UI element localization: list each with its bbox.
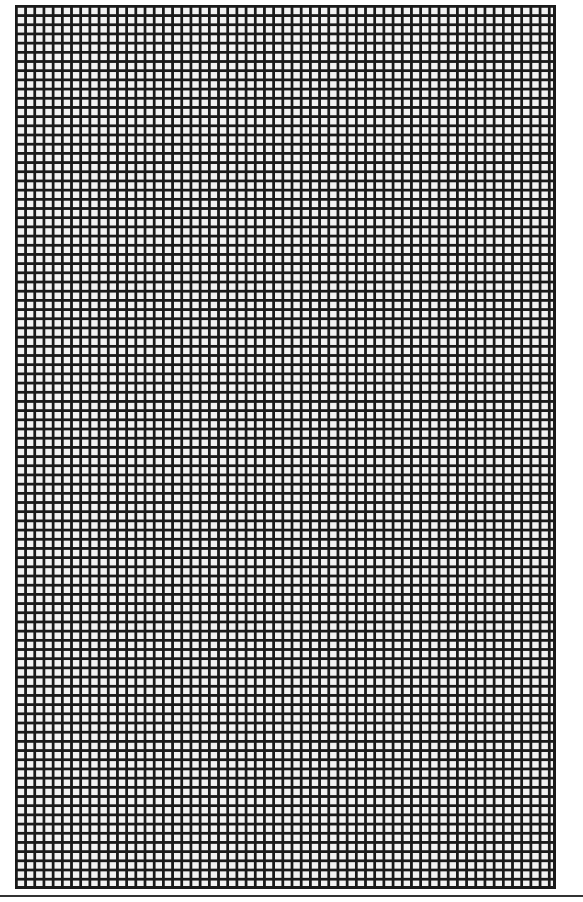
grid-pattern	[15, 5, 556, 889]
bottom-rule	[0, 895, 583, 897]
